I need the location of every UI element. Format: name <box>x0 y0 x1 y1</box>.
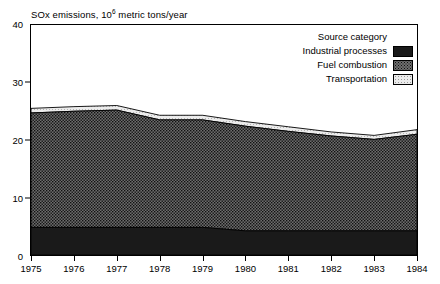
y-axis: 010203040 <box>0 0 30 258</box>
light-dotted-swatch-icon <box>393 74 413 85</box>
y-tick-label: 40 <box>12 19 23 30</box>
x-tick-mark <box>74 256 75 261</box>
y-tick-label: 30 <box>12 77 23 88</box>
x-tick-mark <box>31 256 32 261</box>
x-tick-mark <box>160 256 161 261</box>
legend-item-label: Industrial processes <box>303 44 387 58</box>
area-industrial-processes <box>31 227 417 255</box>
dense-dotted-swatch-icon <box>393 60 413 71</box>
x-tick-label: 1983 <box>364 263 385 274</box>
y-tick-label: 0 <box>18 251 23 262</box>
legend-title-row: Source category <box>289 30 413 44</box>
legend-title: Source category <box>318 30 387 44</box>
legend-title-spacer <box>393 32 413 43</box>
x-tick-mark <box>117 256 118 261</box>
x-tick-mark <box>288 256 289 261</box>
x-tick-mark <box>245 256 246 261</box>
chart-figure: SOx emissions, 106 metric tons/year 0102… <box>0 0 440 284</box>
x-tick-label: 1976 <box>63 263 84 274</box>
x-tick-label: 1980 <box>235 263 256 274</box>
x-axis: 1975197619771978197919801981198219831984 <box>30 256 418 282</box>
x-tick-label: 1975 <box>20 263 41 274</box>
legend-item-transportation[interactable]: Transportation <box>289 72 413 86</box>
y-tick-label: 10 <box>12 193 23 204</box>
x-tick-label: 1984 <box>406 263 427 274</box>
legend-item-label: Transportation <box>326 72 387 86</box>
x-tick-mark <box>331 256 332 261</box>
legend-item-fuel-combustion[interactable]: Fuel combustion <box>289 58 413 72</box>
chart-title-tail: metric tons/year <box>116 9 188 20</box>
chart-legend: Source category Industrial processes Fue… <box>289 30 413 86</box>
x-tick-mark <box>374 256 375 261</box>
x-tick-label: 1978 <box>149 263 170 274</box>
solid-black-swatch-icon <box>393 46 413 57</box>
legend-item-label: Fuel combustion <box>317 58 387 72</box>
x-tick-mark <box>203 256 204 261</box>
chart-title-main: SOx emissions, 10 <box>31 9 112 20</box>
x-tick-label: 1981 <box>278 263 299 274</box>
area-fuel-combustion <box>31 110 417 231</box>
x-tick-label: 1979 <box>192 263 213 274</box>
x-tick-mark <box>417 256 418 261</box>
x-tick-label: 1977 <box>106 263 127 274</box>
x-tick-label: 1982 <box>321 263 342 274</box>
y-tick-label: 20 <box>12 135 23 146</box>
legend-item-industrial-processes[interactable]: Industrial processes <box>289 44 413 58</box>
chart-title: SOx emissions, 106 metric tons/year <box>31 9 188 20</box>
